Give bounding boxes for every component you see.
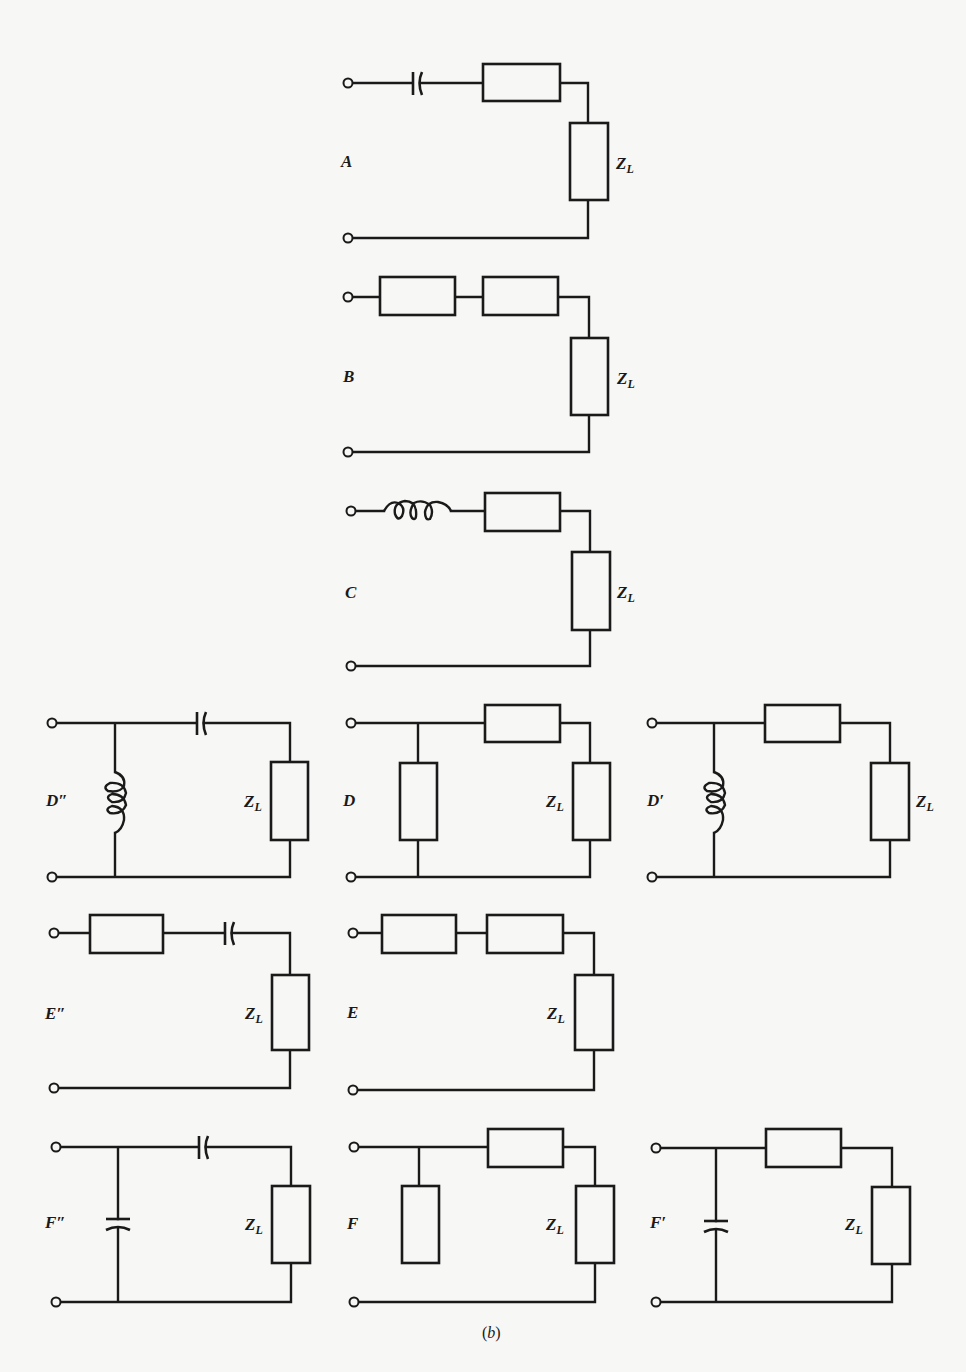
input-terminal-bottom (350, 1298, 359, 1307)
circuit-f-double-prime: F″ ZL (44, 1136, 310, 1307)
circuit-label: D′ (646, 791, 664, 810)
shunt-impedance-box (402, 1186, 439, 1263)
series-impedance-box (766, 1129, 841, 1167)
load-label: ZL (244, 1004, 263, 1026)
load-impedance-box (571, 338, 608, 415)
input-terminal-bottom (347, 662, 356, 671)
series-impedance-box-2 (483, 277, 558, 315)
input-terminal-top (50, 929, 59, 938)
load-impedance-box (575, 975, 613, 1050)
circuit-figure: A ZL B ZL C ZL D″ ZL (0, 0, 966, 1372)
input-terminal-top (52, 1143, 61, 1152)
circuit-label: D (342, 791, 355, 810)
circuit-e-double-prime: E″ ZL (44, 915, 309, 1093)
circuit-f-prime: F′ ZL (649, 1129, 910, 1307)
load-label: ZL (915, 792, 934, 814)
input-terminal-top (350, 1143, 359, 1152)
circuit-d: D ZL (342, 705, 610, 882)
load-label: ZL (545, 792, 564, 814)
input-terminal-top (344, 79, 353, 88)
input-terminal-bottom (344, 234, 353, 243)
load-impedance-box (576, 1186, 614, 1263)
shunt-inductor-icon (704, 772, 725, 833)
series-impedance-box (488, 1129, 563, 1167)
input-terminal-top (652, 1144, 661, 1153)
input-terminal-top (347, 719, 356, 728)
load-label: ZL (243, 792, 262, 814)
load-impedance-box (872, 1187, 910, 1264)
input-terminal-bottom (48, 873, 57, 882)
circuit-d-prime: D′ ZL (646, 705, 934, 882)
circuit-label: B (342, 367, 354, 386)
series-impedance-box (483, 64, 560, 101)
load-label: ZL (615, 154, 634, 176)
circuit-a: A ZL (340, 64, 634, 243)
load-impedance-box (272, 975, 309, 1050)
input-terminal-top (347, 507, 356, 516)
series-capacitor-icon (225, 922, 234, 945)
input-terminal-bottom (347, 873, 356, 882)
series-impedance-box (765, 705, 840, 742)
circuit-d-double-prime: D″ ZL (45, 712, 308, 882)
input-terminal-bottom (50, 1084, 59, 1093)
circuit-label: E (346, 1003, 358, 1022)
input-terminal-bottom (648, 873, 657, 882)
load-impedance-box (573, 763, 610, 840)
shunt-impedance-box (400, 763, 437, 840)
series-capacitor-icon (199, 1136, 208, 1159)
series-inductor-icon (384, 501, 451, 519)
input-terminal-top (344, 293, 353, 302)
input-terminal-bottom (344, 448, 353, 457)
series-impedance-box-2 (487, 915, 563, 953)
circuit-b: B ZL (342, 277, 635, 457)
series-impedance-box-1 (382, 915, 456, 953)
load-impedance-box (272, 1186, 310, 1263)
load-impedance-box (572, 552, 610, 630)
circuit-c: C ZL (345, 493, 635, 671)
input-terminal-top (349, 929, 358, 938)
load-impedance-box (271, 762, 308, 840)
series-capacitor-icon (413, 72, 422, 95)
circuit-label: C (345, 583, 357, 602)
figure-caption: (b) (482, 1324, 501, 1342)
circuit-label: F′ (649, 1213, 666, 1232)
input-terminal-bottom (652, 1298, 661, 1307)
load-label: ZL (616, 369, 635, 391)
load-label: ZL (546, 1004, 565, 1026)
load-impedance-box (570, 123, 608, 200)
circuit-label: E″ (44, 1004, 66, 1023)
input-terminal-bottom (52, 1298, 61, 1307)
series-capacitor-icon (197, 712, 206, 735)
series-impedance-box (485, 493, 560, 531)
input-terminal-top (48, 719, 57, 728)
series-impedance-box-1 (380, 277, 455, 315)
input-terminal-bottom (349, 1086, 358, 1095)
circuit-label: F (346, 1214, 359, 1233)
circuit-label: F″ (44, 1213, 66, 1232)
shunt-inductor-icon (105, 772, 126, 833)
load-label: ZL (244, 1215, 263, 1237)
circuit-label: D″ (45, 791, 68, 810)
load-label: ZL (545, 1215, 564, 1237)
series-impedance-box (485, 705, 560, 742)
circuit-label: A (340, 152, 352, 171)
circuit-e: E ZL (346, 915, 613, 1095)
circuit-f: F ZL (346, 1129, 614, 1307)
series-impedance-box (90, 915, 163, 953)
load-label: ZL (844, 1215, 863, 1237)
input-terminal-top (648, 719, 657, 728)
load-impedance-box (871, 763, 909, 840)
load-label: ZL (616, 583, 635, 605)
